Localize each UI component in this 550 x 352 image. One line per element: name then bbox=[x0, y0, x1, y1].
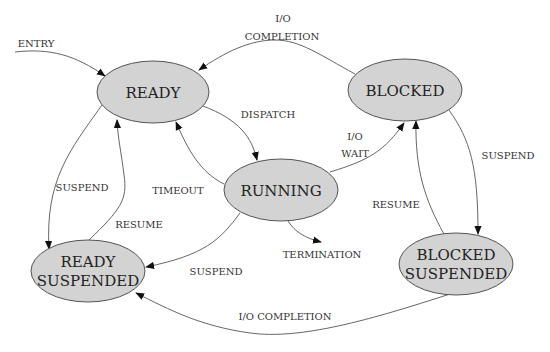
edge-label-resume-blocked: RESUME bbox=[372, 199, 420, 210]
edge-label-io-completion-top-2: COMPLETION bbox=[245, 31, 320, 42]
process-state-diagram: ENTRY I/O COMPLETION DISPATCH TIMEOUT I/… bbox=[0, 0, 550, 352]
edge-label-suspend-running: SUSPEND bbox=[190, 266, 243, 277]
edge-suspend-blocked bbox=[449, 110, 478, 234]
edge-label-dispatch: DISPATCH bbox=[241, 109, 296, 120]
edge-entry bbox=[15, 51, 105, 76]
edge-timeout bbox=[176, 122, 224, 184]
node-label-ready-suspended-1: READY bbox=[60, 253, 116, 271]
edge-label-io-completion-top-1: I/O bbox=[275, 13, 291, 24]
edge-label-io-completion-bottom: I/O COMPLETION bbox=[238, 311, 331, 322]
node-label-ready-suspended-2: SUSPENDED bbox=[37, 272, 139, 290]
edge-resume-blocked bbox=[416, 121, 444, 234]
edge-label-io-wait-2: WAIT bbox=[341, 148, 369, 159]
node-ready: READY bbox=[97, 61, 209, 123]
edge-label-io-wait-1: I/O bbox=[347, 131, 363, 142]
edge-suspend-ready bbox=[49, 105, 102, 249]
edge-label-resume-ready: RESUME bbox=[115, 219, 163, 230]
node-ready-suspended: READY SUSPENDED bbox=[31, 240, 145, 302]
edge-label-timeout: TIMEOUT bbox=[152, 185, 204, 196]
node-label-running: RUNNING bbox=[240, 182, 321, 200]
node-label-ready: READY bbox=[125, 84, 181, 102]
node-label-blocked: BLOCKED bbox=[366, 82, 445, 100]
edge-termination bbox=[288, 221, 321, 242]
node-label-blocked-suspended-2: SUSPENDED bbox=[405, 265, 507, 283]
edge-label-termination: TERMINATION bbox=[283, 249, 362, 260]
node-blocked-suspended: BLOCKED SUSPENDED bbox=[399, 233, 513, 295]
edge-label-suspend-ready: SUSPEND bbox=[56, 182, 109, 193]
node-label-blocked-suspended-1: BLOCKED bbox=[417, 246, 496, 264]
edge-io-completion-top bbox=[199, 40, 355, 74]
nodes: READY BLOCKED RUNNING READY SUSPENDED BL… bbox=[31, 59, 513, 302]
node-running: RUNNING bbox=[224, 159, 338, 221]
node-blocked: BLOCKED bbox=[348, 59, 462, 121]
edge-label-suspend-blocked: SUSPEND bbox=[482, 150, 535, 161]
edge-label-entry: ENTRY bbox=[18, 38, 55, 49]
